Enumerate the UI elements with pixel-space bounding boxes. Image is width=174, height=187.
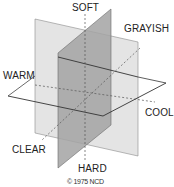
copyright-text: © 1975 NCD (67, 178, 104, 185)
horizontal-plane-right-back-edge (138, 77, 166, 83)
label-cool: COOL (145, 108, 174, 118)
label-warm: WARM (3, 71, 35, 81)
label-clear: CLEAR (12, 145, 46, 155)
diagram-canvas: SOFT GRAYISH WARM COOL CLEAR HARD © 1975… (0, 0, 174, 187)
label-soft: SOFT (72, 3, 99, 13)
label-hard: HARD (78, 164, 107, 174)
label-grayish: GRAYISH (124, 24, 169, 34)
